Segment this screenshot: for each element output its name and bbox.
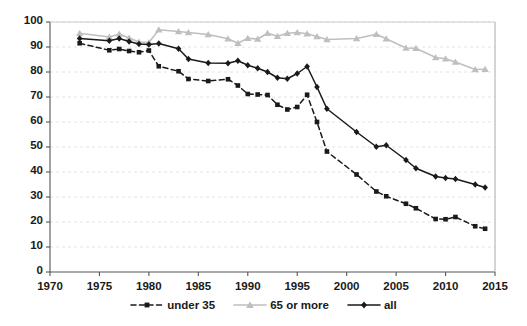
series-all [77,35,488,191]
data-point-marker [147,48,152,53]
series-line [80,39,485,188]
data-point-marker [284,75,290,82]
legend-item-label: 65 or more [270,299,329,311]
data-point-marker [245,62,251,69]
y-axis-tick-label: 20 [0,214,43,226]
data-point-marker [295,105,300,110]
series-65-or-more [76,26,489,72]
legend-item-under-35[interactable]: under 35 [130,298,215,312]
data-point-marker [137,50,142,55]
data-point-marker [275,102,280,107]
data-point-marker [305,92,310,97]
y-axis-tick-label: 0 [0,264,43,276]
data-point-marker [354,172,359,177]
legend-item-all[interactable]: all [347,298,397,312]
line-chart: 0102030405060708090100 19701975198019851… [0,0,527,326]
data-point-marker [384,194,389,199]
data-point-marker [433,217,438,222]
data-point-marker [77,41,82,46]
data-point-marker [236,83,241,88]
data-point-marker [285,107,290,112]
data-point-marker [325,149,330,154]
data-point-marker [117,47,122,52]
data-point-marker [245,92,250,97]
data-point-marker [255,92,260,97]
data-point-marker [275,74,281,81]
y-axis-tick-label: 70 [0,89,43,101]
data-point-marker [226,77,231,82]
y-axis-tick-label: 60 [0,114,43,126]
data-point-marker [205,60,211,67]
data-point-marker [235,57,241,64]
data-point-marker [383,35,390,41]
y-axis-tick-label: 80 [0,64,43,76]
y-axis-tick-label: 100 [0,14,43,26]
series-line [80,43,485,229]
y-axis-tick-label: 50 [0,139,43,151]
data-point-marker [234,40,241,46]
data-series-group [76,26,489,231]
y-axis-tick-label: 30 [0,189,43,201]
data-point-marker [264,30,271,36]
data-point-marker [433,173,439,180]
data-point-marker [314,84,320,91]
data-point-marker [483,226,488,231]
data-point-marker [453,215,458,220]
data-point-marker [225,60,231,67]
plot-area [0,0,527,326]
data-point-marker [265,69,271,76]
y-axis-tick-label: 40 [0,164,43,176]
data-point-marker [374,189,379,194]
series-line [80,30,485,70]
data-point-marker [186,77,191,82]
data-point-marker [156,40,162,47]
data-point-marker [315,120,320,125]
legend-marker-triangle [233,298,267,312]
data-point-marker [443,217,448,222]
chart-legend: under 3565 or moreall [0,298,527,312]
y-axis-tick-label: 10 [0,239,43,251]
legend-item-label: under 35 [167,299,215,311]
legend-item-label: all [384,299,397,311]
data-point-marker [255,65,261,72]
x-axis-tick-label: 2015 [465,280,525,292]
data-point-marker [453,176,459,183]
data-point-marker [482,184,488,191]
data-point-marker [77,35,83,42]
data-point-marker [472,181,478,188]
data-point-marker [414,206,419,211]
gridlines [50,22,495,247]
data-point-marker [373,31,380,37]
series-under-35 [77,41,487,231]
data-point-marker [127,49,132,54]
data-point-marker [107,48,112,53]
legend-marker-diamond [347,298,381,312]
data-point-marker [176,69,181,74]
data-point-marker [145,303,150,308]
y-axis-tick-label: 90 [0,39,43,51]
data-point-marker [361,302,367,309]
data-point-marker [443,175,449,182]
axis-ticks [46,22,495,276]
data-point-marker [206,79,211,84]
data-point-marker [473,224,478,229]
data-point-marker [156,64,161,69]
data-point-marker [404,201,409,206]
legend-item-65-or-more[interactable]: 65 or more [233,298,329,312]
legend-marker-square [130,298,164,312]
data-point-marker [265,93,270,98]
